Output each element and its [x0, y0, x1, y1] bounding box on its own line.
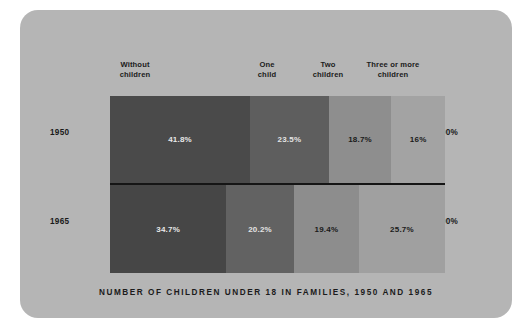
- bar-value-label: 41.8%: [168, 135, 192, 144]
- bar-row-1965: 34.7% 20.2% 19.4% 25.7%: [110, 185, 445, 273]
- bar-segment-1965-two-children[interactable]: 19.4%: [294, 185, 359, 273]
- bar-value-label: 34.7%: [156, 225, 180, 234]
- column-header-line2: children: [90, 70, 180, 80]
- column-header-line1: Three or more: [354, 60, 432, 70]
- chart-caption: NUMBER OF CHILDREN UNDER 18 IN FAMILIES,…: [20, 288, 512, 297]
- column-header-line2: children: [354, 70, 432, 80]
- bar-segment-1950-one-child[interactable]: 23.5%: [250, 96, 329, 183]
- bar-segment-1965-three-or-more-children[interactable]: 25.7%: [359, 185, 445, 273]
- column-header-line1: One: [236, 60, 298, 70]
- bar-value-label: 18.7%: [348, 135, 372, 144]
- row-label-1965: 1965: [50, 217, 69, 226]
- bar-value-label: 19.4%: [315, 225, 339, 234]
- column-header-line1: Two: [297, 60, 359, 70]
- column-header-line2: child: [236, 70, 298, 80]
- bar-value-label: 16%: [410, 135, 427, 144]
- bar-value-label: 23.5%: [278, 135, 302, 144]
- column-header-line2: children: [297, 70, 359, 80]
- row-label-1950: 1950: [50, 128, 69, 137]
- bar-value-label: 20.2%: [248, 225, 272, 234]
- bar-value-label: 25.7%: [390, 225, 414, 234]
- column-header-one-child: One child: [236, 60, 298, 79]
- bar-row-1950: 41.8% 23.5% 18.7% 16%: [110, 96, 445, 183]
- bar-segment-1965-one-child[interactable]: 20.2%: [226, 185, 294, 273]
- bar-segment-1950-three-or-more-children[interactable]: 16%: [391, 96, 445, 183]
- bar-segment-1965-without-children[interactable]: 34.7%: [110, 185, 226, 273]
- bar-segment-1950-without-children[interactable]: 41.8%: [110, 96, 250, 183]
- column-header-two-children: Two children: [297, 60, 359, 79]
- column-header-line1: Without: [90, 60, 180, 70]
- stacked-bar-plot: 41.8% 23.5% 18.7% 16% 34.7% 20.2% 19.4%: [110, 96, 445, 273]
- column-header-without-children: Without children: [90, 60, 180, 79]
- chart-card: Without children One child Two children …: [20, 10, 512, 318]
- bar-segment-1950-two-children[interactable]: 18.7%: [329, 96, 392, 183]
- column-header-three-or-more-children: Three or more children: [354, 60, 432, 79]
